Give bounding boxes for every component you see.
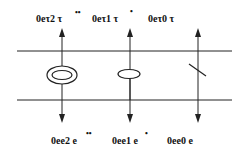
up-arrow-icon [127,28,133,37]
bottom-label-1: 0ee1 e [112,136,138,146]
up-arrow-icon [195,28,201,37]
column-1 [118,28,140,123]
bottom-label-1-sup: • [145,130,148,138]
double-ellipse-inner-icon [52,71,72,80]
bottom-label-0: 0ee2 e [51,136,77,146]
down-arrow-icon [127,114,133,123]
down-arrow-icon [59,114,65,123]
column-2 [189,28,206,123]
bottom-label-2: 0ee0 e [167,136,193,146]
single-ellipse-icon [118,70,140,79]
up-arrow-icon [59,28,65,37]
top-label-0: 0eτ2 τ [36,14,62,24]
top-label-1-sup: • [130,8,133,16]
top-label-2: 0eτ0 τ [148,14,174,24]
top-label-0-sup: •• [75,9,81,17]
down-arrow-icon [195,114,201,123]
column-0 [47,28,77,123]
bottom-label-0-sup: •• [86,130,92,138]
diagram-canvas: 0eτ2 τ •• 0eτ1 τ • 0eτ0 τ 0ee2 e •• 0ee1… [0,0,244,153]
top-label-1: 0eτ1 τ [92,14,118,24]
